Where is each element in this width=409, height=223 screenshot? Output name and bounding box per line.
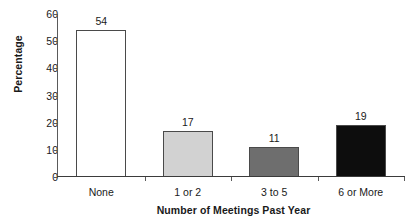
x-axis-category-label: 1 or 2 (143, 186, 233, 198)
bar-1-or-2 (163, 131, 213, 177)
bar-3-to-5 (249, 147, 299, 177)
x-axis-category-label: 6 or More (316, 186, 406, 198)
x-axis-tick-mark (145, 177, 146, 181)
x-axis-category-label: 3 to 5 (229, 186, 319, 198)
bar-chart: Percentage 0102030405060 54171119 Number… (0, 0, 409, 223)
bar-value-label: 17 (168, 117, 208, 128)
x-axis-tick-mark (231, 177, 232, 181)
bar-none (76, 30, 126, 177)
plot-area: 54171119 (58, 14, 404, 177)
bar-value-label: 19 (341, 111, 381, 122)
y-axis-tick-mark (54, 177, 58, 178)
bar-6-or-more (336, 125, 386, 177)
bar-value-label: 11 (254, 133, 294, 144)
x-axis-category-label: None (56, 186, 146, 198)
y-axis-ticks: 0102030405060 (28, 0, 58, 223)
bar-value-label: 54 (81, 16, 121, 27)
x-axis-tick-mark (404, 177, 405, 181)
x-axis-tick-mark (318, 177, 319, 181)
y-axis-title: Percentage (11, 14, 25, 114)
x-axis-title: Number of Meetings Past Year (0, 204, 409, 216)
